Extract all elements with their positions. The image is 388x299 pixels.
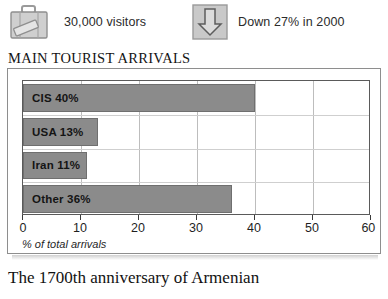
bar-iran: Iran 11%	[23, 152, 87, 180]
stat-visitors: 30,000 visitors	[8, 4, 146, 40]
x-axis-tick-label: 40	[247, 221, 261, 235]
bar-label: Iran 11%	[24, 159, 80, 171]
stat-decline-label: Down 27% in 2000	[238, 15, 345, 29]
x-axis-tick	[22, 215, 23, 220]
stat-decline: Down 27% in 2000	[192, 4, 345, 40]
stats-row: 30,000 visitors Down 27% in 2000	[0, 0, 388, 46]
chart-title: MAIN TOURIST ARRIVALS	[8, 50, 191, 67]
x-axis-tick	[254, 215, 255, 220]
bar-label: Other 36%	[24, 193, 91, 205]
bar-label: CIS 40%	[24, 92, 79, 104]
plot-area: CIS 40%USA 13%Iran 11%Other 36%	[22, 80, 370, 215]
x-axis-tick	[80, 215, 81, 220]
x-axis-tick-label: 20	[131, 221, 145, 235]
x-axis-tick-label: 50	[305, 221, 319, 235]
chart-panel: CIS 40%USA 13%Iran 11%Other 36% 01020304…	[7, 68, 381, 254]
suitcase-icon	[8, 4, 50, 40]
x-axis-tick	[196, 215, 197, 220]
bar-band: USA 13%	[23, 115, 371, 149]
bar-band: Other 36%	[23, 182, 371, 216]
stat-visitors-label: 30,000 visitors	[64, 15, 146, 29]
scan-shadow	[12, 255, 378, 260]
bar-cis: CIS 40%	[23, 84, 255, 112]
x-axis-tick-label: 0	[20, 221, 27, 235]
bar-other: Other 36%	[23, 185, 232, 213]
x-axis-tick	[370, 215, 371, 220]
x-axis-tick-label: 30	[189, 221, 203, 235]
down-arrow-icon	[192, 4, 228, 40]
x-axis-tick-label: 10	[73, 221, 87, 235]
x-axis-caption: % of total arrivals	[22, 238, 106, 250]
bar-band: Iran 11%	[23, 149, 371, 183]
x-axis-tick	[138, 215, 139, 220]
x-axis-tick	[312, 215, 313, 220]
bar-label: USA 13%	[24, 126, 83, 138]
bar-band: CIS 40%	[23, 81, 371, 115]
bar-usa: USA 13%	[23, 118, 98, 146]
page-caption: The 1700th anniversary of Armenian	[8, 268, 259, 288]
x-axis-tick-label: 60	[361, 221, 375, 235]
